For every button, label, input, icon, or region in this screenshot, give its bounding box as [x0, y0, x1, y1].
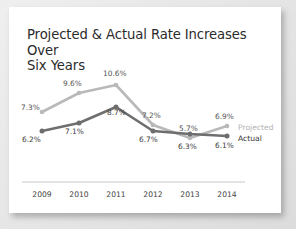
chart-svg: [9, 7, 281, 213]
line-chart: 7.3% 9.6% 10.6% 7.2% 5.7% 6.9% 6.2% 7.1%…: [9, 7, 281, 213]
x-tick-2012: 2012: [138, 190, 168, 199]
data-label-actual-2013: 6.3%: [178, 142, 197, 151]
data-label-actual-2009: 6.2%: [22, 135, 41, 144]
x-tick-2010: 2010: [64, 190, 94, 199]
data-label-actual-2012: 6.7%: [139, 135, 158, 144]
data-label-actual-2014: 6.1%: [215, 141, 234, 150]
legend-item-actual[interactable]: Actual: [238, 134, 262, 143]
x-tick-2011: 2011: [101, 190, 131, 199]
data-label-projected-2012: 7.2%: [142, 111, 161, 120]
x-tick-2013: 2013: [175, 190, 205, 199]
data-label-projected-2014: 6.9%: [215, 112, 234, 121]
x-tick-2009: 2009: [27, 190, 57, 199]
legend-item-projected[interactable]: Projected: [238, 123, 273, 132]
slide-card: Projected & Actual Rate Increases Over S…: [9, 7, 281, 213]
data-label-actual-2011: 8.7%: [107, 108, 126, 117]
data-label-actual-2010: 7.1%: [65, 127, 84, 136]
screenshot-root: Projected & Actual Rate Increases Over S…: [0, 0, 296, 229]
data-label-projected-2010: 9.6%: [63, 79, 82, 88]
data-label-projected-2011: 10.6%: [103, 69, 126, 78]
x-tick-2014: 2014: [212, 190, 242, 199]
data-label-projected-2013: 5.7%: [179, 124, 198, 133]
data-label-projected-2009: 7.3%: [21, 103, 40, 112]
